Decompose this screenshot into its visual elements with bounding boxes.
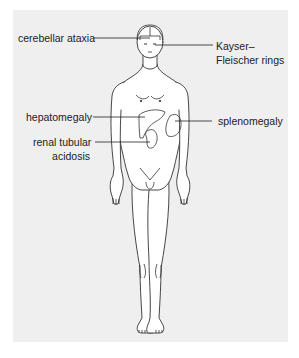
label-hepatomegaly: hepatomegaly bbox=[26, 111, 92, 123]
label-kayser-fleischer-rings: Kayser– Fleischer rings bbox=[216, 40, 284, 66]
torso bbox=[117, 64, 183, 190]
label-cerebellar-ataxia: cerebellar ataxia bbox=[18, 32, 95, 44]
label-line-1: Kayser– bbox=[216, 40, 284, 52]
label-line-2: acidosis bbox=[33, 150, 90, 162]
label-line-1: renal tubular bbox=[33, 136, 90, 148]
right-leg bbox=[147, 168, 169, 333]
label-splenomegaly: splenomegaly bbox=[218, 115, 283, 127]
label-line-2: Fleischer rings bbox=[216, 54, 284, 66]
label-renal-tubular-acidosis: renal tubular acidosis bbox=[33, 136, 90, 162]
